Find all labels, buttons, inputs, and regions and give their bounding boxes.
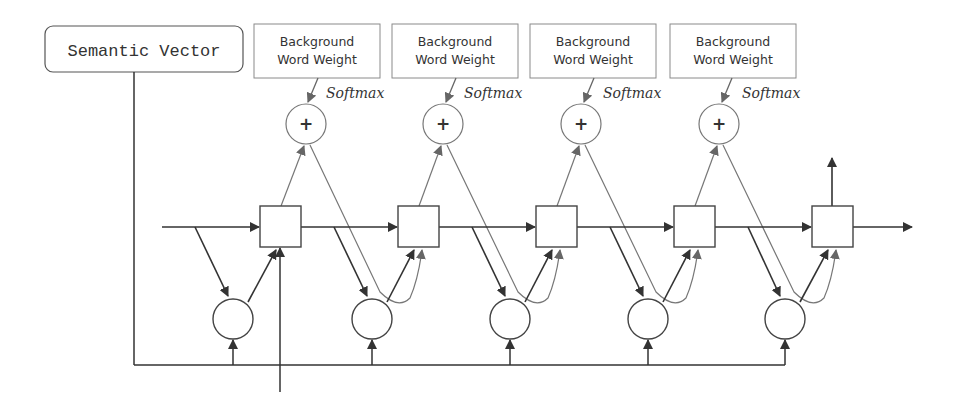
semantic-vector-box: Semantic Vector xyxy=(45,26,243,72)
cell-1 xyxy=(260,206,301,247)
rnn-diagram: Semantic Vector Background Word Weight B… xyxy=(0,0,954,402)
background-word-weight-box-2: Background Word Weight xyxy=(392,24,518,78)
plus-node-1: + xyxy=(286,104,326,144)
plus-node-4: + xyxy=(699,104,739,144)
cell-4 xyxy=(674,206,715,247)
svg-text:+: + xyxy=(299,114,313,134)
input-node-5 xyxy=(765,299,805,339)
svg-text:Background: Background xyxy=(418,34,493,49)
svg-text:+: + xyxy=(436,114,450,134)
plus-node-2: + xyxy=(423,104,463,144)
background-word-weight-box-3: Background Word Weight xyxy=(530,24,656,78)
plus-node-3: + xyxy=(561,104,601,144)
svg-text:Word Weight: Word Weight xyxy=(277,52,357,67)
svg-text:Background: Background xyxy=(280,34,355,49)
svg-text:Word Weight: Word Weight xyxy=(415,52,495,67)
input-node-4 xyxy=(628,299,668,339)
svg-text:Background: Background xyxy=(696,34,771,49)
svg-text:+: + xyxy=(712,114,726,134)
softmax-label-3: Softmax xyxy=(603,85,661,101)
cell-3 xyxy=(536,206,577,247)
svg-text:Word Weight: Word Weight xyxy=(693,52,773,67)
cell-5 xyxy=(812,206,853,247)
input-node-2 xyxy=(352,299,392,339)
svg-text:Background: Background xyxy=(556,34,631,49)
input-node-1 xyxy=(213,299,253,339)
softmax-label-4: Softmax xyxy=(742,85,800,101)
softmax-label-1: Softmax xyxy=(326,85,384,101)
semantic-vector-label: Semantic Vector xyxy=(67,42,220,61)
softmax-label-2: Softmax xyxy=(464,85,522,101)
svg-text:Word Weight: Word Weight xyxy=(553,52,633,67)
svg-text:+: + xyxy=(574,114,588,134)
input-node-3 xyxy=(490,299,530,339)
cell-2 xyxy=(398,206,439,247)
background-word-weight-box-1: Background Word Weight xyxy=(254,24,380,78)
background-word-weight-box-4: Background Word Weight xyxy=(670,24,796,78)
